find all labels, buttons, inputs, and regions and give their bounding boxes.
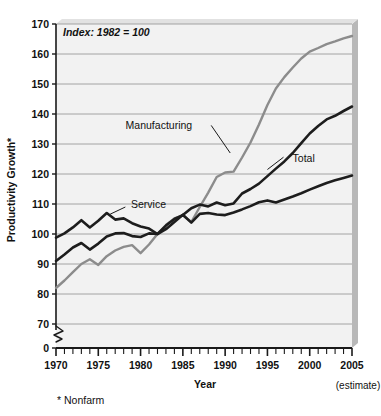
y-tick-label-110: 110: [32, 198, 49, 210]
y-tick-label-100: 100: [31, 228, 49, 240]
estimate-note: (estimate): [336, 380, 380, 391]
x-tick-label-1995: 1995: [256, 359, 280, 371]
x-tick-label-1970: 1970: [44, 359, 68, 371]
chart-figure: 7080901001101201301401501601700 19701975…: [0, 0, 381, 416]
plot-bevel-top: [56, 19, 358, 24]
y-tick-label-170: 170: [31, 18, 49, 30]
index-note: Index: 1982 = 100: [63, 26, 150, 38]
y-axis-title: Productivity Growth*: [5, 137, 17, 242]
series-label-manufacturing: Manufacturing: [126, 119, 193, 131]
x-tick-label-1975: 1975: [87, 359, 111, 371]
y-tick-label-120: 120: [31, 168, 49, 180]
x-tick-label-1990: 1990: [213, 359, 237, 371]
y-tick-label-0: 0: [43, 342, 49, 354]
y-tick-label-160: 160: [31, 48, 49, 60]
y-tick-label-140: 140: [31, 108, 49, 120]
plot-background-rect: [56, 24, 352, 348]
footnote-nonfarm: * Nonfarm: [57, 394, 105, 406]
y-tick-label-90: 90: [37, 258, 49, 270]
plot-bevel-right: [352, 19, 358, 348]
y-tick-label-130: 130: [31, 138, 49, 150]
x-tick-label-1985: 1985: [171, 359, 195, 371]
y-tick-label-70: 70: [37, 318, 49, 330]
x-tick-label-2005: 2005: [340, 359, 364, 371]
y-axis: 7080901001101201301401501601700: [31, 18, 56, 354]
y-tick-label-80: 80: [37, 288, 49, 300]
series-label-total: Total: [293, 152, 315, 164]
series-label-service: Service: [131, 198, 166, 210]
x-axis: 19701975198019851990199520002005: [44, 348, 364, 371]
x-tick-label-1980: 1980: [129, 359, 153, 371]
x-tick-label-2000: 2000: [298, 359, 322, 371]
plot-area-background: [56, 19, 358, 348]
x-axis-title: Year: [194, 378, 216, 390]
y-tick-label-150: 150: [31, 78, 49, 90]
productivity-growth-line-chart: 7080901001101201301401501601700 19701975…: [0, 0, 381, 416]
